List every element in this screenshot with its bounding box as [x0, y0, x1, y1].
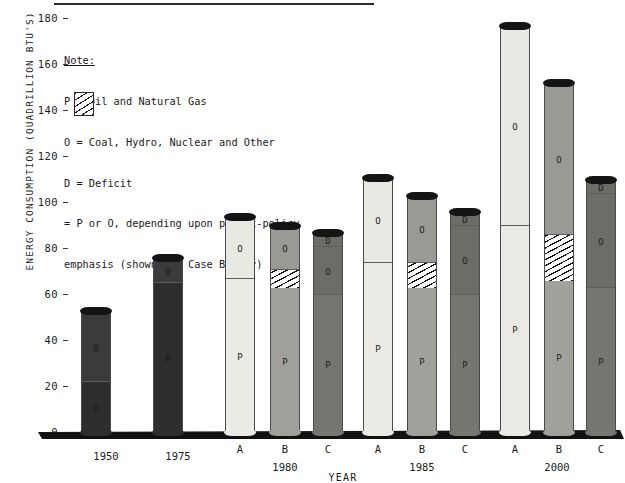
bar-top-cap — [406, 192, 438, 200]
bar-top-cap — [269, 222, 301, 230]
bar-segment-hatched — [408, 263, 436, 288]
bar-2000-case-A: PO — [500, 26, 530, 433]
bar-bottom-curve — [80, 429, 112, 436]
y-tick-label-40: 40 — [12, 334, 58, 346]
bar-1950: PO — [81, 311, 111, 433]
segment-label-D: D — [314, 236, 342, 246]
bar-1985-case-C: POD — [450, 212, 480, 433]
y-tick-label-100: 100 — [12, 196, 58, 208]
bar-segment-hatched — [271, 270, 299, 288]
x-case-label-2000-C: C — [581, 443, 621, 455]
x-case-label-2000-A: A — [495, 443, 535, 455]
bar-bottom-curve — [543, 429, 575, 436]
segment-label-P: P — [451, 360, 479, 370]
bar-bottom-curve — [152, 429, 184, 436]
x-group-label-1975: 1975 — [148, 450, 208, 462]
bar-tube: PO — [407, 196, 437, 433]
bar-tube: PO — [153, 258, 183, 433]
y-tick-label-80: 80 — [12, 242, 58, 254]
bar-tube: PO — [270, 226, 300, 433]
bar-bottom-curve — [362, 429, 394, 436]
y-tick-label-120: 120 — [12, 150, 58, 162]
segment-label-D: D — [587, 183, 615, 193]
segment-label-P: P — [154, 354, 182, 364]
bar-tube: PO — [544, 83, 574, 433]
x-case-label-1985-B: B — [402, 443, 442, 455]
segment-label-P: P — [587, 357, 615, 367]
x-group-label-2000: 2000 — [527, 461, 587, 473]
legend-entry-d: D = Deficit — [64, 177, 300, 191]
y-tick-label-60: 60 — [12, 288, 58, 300]
y-tick-label-140: 140 — [12, 104, 58, 116]
segment-divider — [154, 282, 182, 283]
bar-top-cap — [362, 174, 394, 182]
bar-1980-case-C: POD — [313, 233, 343, 433]
x-case-label-1985-C: C — [445, 443, 485, 455]
bar-bottom-curve — [585, 429, 617, 436]
bar-top-cap — [80, 307, 112, 315]
y-tick-mark-40 — [63, 340, 68, 341]
segment-label-P: P — [501, 325, 529, 335]
y-tick-mark-20 — [63, 386, 68, 387]
bar-tube: POD — [313, 233, 343, 433]
x-axis-title: YEAR — [313, 472, 373, 483]
y-tick-label-20: 20 — [12, 380, 58, 392]
segment-divider — [226, 278, 254, 279]
segment-label-O: O — [408, 225, 436, 235]
segment-divider — [587, 287, 615, 288]
bar-tube: POD — [450, 212, 480, 433]
segment-label-O: O — [314, 267, 342, 277]
hatch-swatch-icon — [74, 92, 94, 116]
x-case-label-1980-B: B — [265, 443, 305, 455]
chart-figure: ENERGY CONSUMPTION (QUADRILLION BTU'S) 0… — [0, 0, 625, 483]
segment-label-O: O — [271, 244, 299, 254]
top-rule — [54, 3, 374, 5]
bar-tube: POD — [586, 180, 616, 433]
legend-entry-p: P = Oil and Natural Gas — [64, 95, 300, 109]
x-case-label-1980-A: A — [220, 443, 260, 455]
segment-label-O: O — [154, 267, 182, 277]
bar-2000-case-C: POD — [586, 180, 616, 433]
x-group-label-1985: 1985 — [392, 461, 452, 473]
bar-top-cap — [152, 254, 184, 262]
legend-note-title: Note: — [64, 54, 300, 68]
segment-divider — [364, 262, 392, 263]
legend-entry-hatch-line1: = P or O, depending upon public-policy — [64, 217, 300, 231]
segment-divider — [451, 294, 479, 295]
y-tick-mark-180 — [63, 18, 68, 19]
segment-label-P: P — [271, 357, 299, 367]
segment-label-O: O — [501, 122, 529, 132]
bar-tube: PO — [363, 178, 393, 433]
segment-label-O: O — [82, 343, 110, 353]
bar-tube: PO — [225, 217, 255, 433]
bar-1985-case-A: PO — [363, 178, 393, 433]
bar-2000-case-B: PO — [544, 83, 574, 433]
segment-label-O: O — [451, 256, 479, 266]
bar-tube: PO — [81, 311, 111, 433]
segment-divider — [82, 381, 110, 382]
segment-label-D: D — [451, 215, 479, 225]
segment-divider — [271, 269, 299, 270]
bar-bottom-curve — [269, 429, 301, 436]
segment-divider — [314, 246, 342, 247]
bar-bottom-curve — [224, 429, 256, 436]
bar-1975: PO — [153, 258, 183, 433]
x-case-label-1985-A: A — [358, 443, 398, 455]
segment-label-P: P — [82, 404, 110, 414]
segment-label-P: P — [364, 344, 392, 354]
segment-label-O: O — [226, 244, 254, 254]
bar-1985-case-B: PO — [407, 196, 437, 433]
x-group-label-1950: 1950 — [76, 450, 136, 462]
x-case-label-1980-C: C — [308, 443, 348, 455]
bar-top-cap — [224, 213, 256, 221]
bar-1980-case-B: PO — [270, 226, 300, 433]
segment-label-O: O — [545, 155, 573, 165]
bar-top-cap — [499, 22, 531, 30]
legend-entry-o: O = Coal, Hydro, Nuclear and Other — [64, 136, 300, 150]
y-tick-label-160: 160 — [12, 58, 58, 70]
x-group-label-1980: 1980 — [255, 461, 315, 473]
bar-1980-case-A: PO — [225, 217, 255, 433]
bar-tube: PO — [500, 26, 530, 433]
segment-label-O: O — [587, 237, 615, 247]
bar-top-cap — [543, 79, 575, 87]
